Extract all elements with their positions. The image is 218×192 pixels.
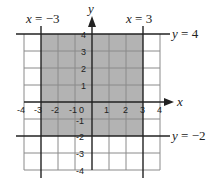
svg-text:0: 0 <box>79 105 84 115</box>
svg-text:3: 3 <box>81 47 86 57</box>
svg-text:2: 2 <box>81 64 86 74</box>
svg-text:-4: -4 <box>17 105 25 115</box>
svg-text:-1: -1 <box>76 116 84 126</box>
coordinate-plane: x y -4 -3 -2 -1 0 1 2 3 4 4 3 2 1 -1 -2 … <box>0 0 218 192</box>
svg-text:-1: -1 <box>69 105 77 115</box>
x-axis-label: x <box>176 94 183 109</box>
svg-text:4: 4 <box>81 30 86 40</box>
svg-text:2: 2 <box>123 105 128 115</box>
svg-text:1: 1 <box>81 81 86 91</box>
label-x-3: x = 3 <box>125 11 152 26</box>
svg-text:1: 1 <box>104 105 109 115</box>
svg-text:-2: -2 <box>51 105 59 115</box>
label-y-4: y = 4 <box>170 26 199 41</box>
svg-text:-3: -3 <box>76 149 84 159</box>
svg-text:-2: -2 <box>76 132 84 142</box>
svg-text:3: 3 <box>140 105 145 115</box>
svg-text:-4: -4 <box>76 166 84 176</box>
label-x-neg3: x = −3 <box>25 11 59 26</box>
svg-text:4: 4 <box>157 105 162 115</box>
svg-text:-3: -3 <box>34 105 42 115</box>
label-y-neg2: y = −2 <box>170 128 205 143</box>
y-axis-label: y <box>86 1 94 16</box>
x-axis-arrow-icon <box>164 98 174 106</box>
y-axis-arrow-icon <box>88 16 96 27</box>
